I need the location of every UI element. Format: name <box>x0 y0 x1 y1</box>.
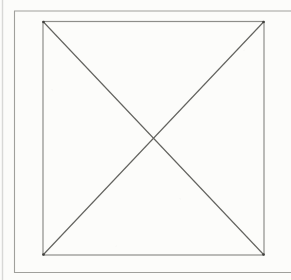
corner-dot-1 <box>262 21 265 24</box>
figure-root: Crossed Square Diagram Scanned line draw… <box>0 0 291 280</box>
crossed-square-figure: Crossed Square Diagram Scanned line draw… <box>0 0 291 280</box>
corner-dot-0 <box>42 21 45 24</box>
corner-dot-3 <box>42 253 45 256</box>
corner-dot-2 <box>262 253 265 256</box>
